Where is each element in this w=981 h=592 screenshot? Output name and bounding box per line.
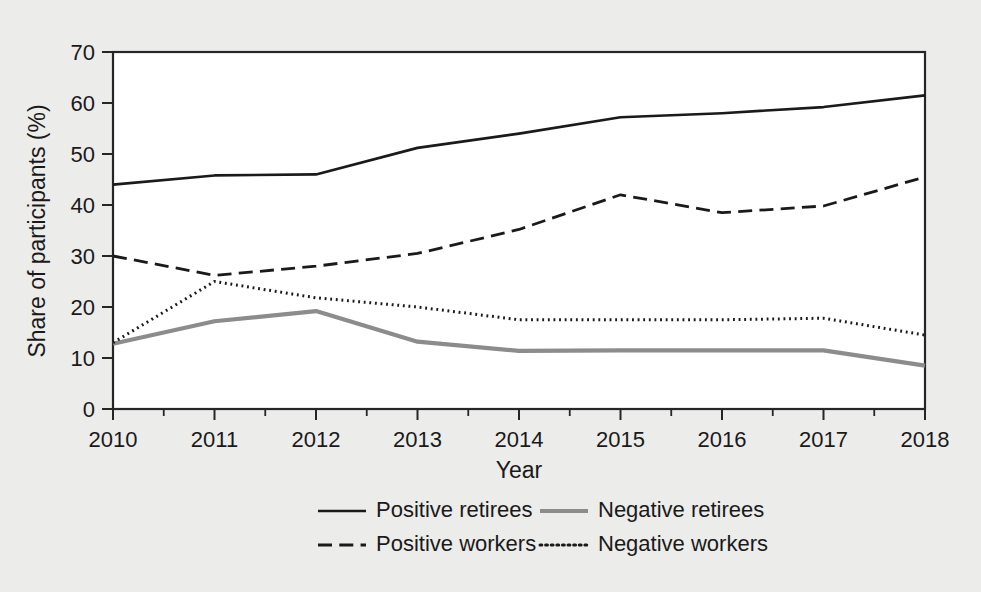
y-tick-label-0: 0 bbox=[83, 397, 95, 422]
line-chart-figure: 010203040506070 201020112012201320142015… bbox=[0, 0, 981, 592]
y-tick-label-70: 70 bbox=[71, 40, 95, 65]
legend-label-positive-workers: Positive workers bbox=[376, 531, 536, 556]
x-tick-label-2015: 2015 bbox=[596, 427, 645, 452]
y-tick-label-60: 60 bbox=[71, 91, 95, 116]
legend-label-negative-workers: Negative workers bbox=[598, 531, 768, 556]
x-tick-label-2012: 2012 bbox=[292, 427, 341, 452]
y-tick-label-40: 40 bbox=[71, 193, 95, 218]
x-tick-label-2018: 2018 bbox=[901, 427, 950, 452]
y-tick-label-20: 20 bbox=[71, 295, 95, 320]
x-tick-label-2016: 2016 bbox=[698, 427, 747, 452]
x-tick-label-2017: 2017 bbox=[799, 427, 848, 452]
x-axis-tick-labels: 201020112012201320142015201620172018 bbox=[89, 427, 950, 452]
y-tick-label-50: 50 bbox=[71, 142, 95, 167]
x-tick-label-2014: 2014 bbox=[495, 427, 544, 452]
x-tick-label-2010: 2010 bbox=[89, 427, 138, 452]
y-axis-title: Share of participants (%) bbox=[24, 104, 50, 357]
x-tick-label-2013: 2013 bbox=[393, 427, 442, 452]
legend-label-negative-retirees: Negative retirees bbox=[598, 497, 764, 522]
legend-label-positive-retirees: Positive retirees bbox=[376, 497, 533, 522]
x-tick-label-2011: 2011 bbox=[191, 427, 238, 452]
y-tick-label-30: 30 bbox=[71, 244, 95, 269]
y-tick-label-10: 10 bbox=[71, 346, 95, 371]
x-axis-title: Year bbox=[496, 457, 543, 483]
